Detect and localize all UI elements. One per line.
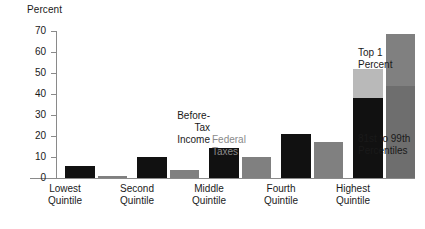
annotation-line-2: Percent <box>358 59 392 71</box>
bar-before-tax-income-second <box>137 157 167 178</box>
y-tick-mark-50 <box>51 73 56 74</box>
legend-line-3: Income <box>148 134 210 146</box>
y-tick-mark-60 <box>51 52 56 53</box>
legend-line-1: Federal <box>212 134 274 146</box>
annotation-line-1: Top 1 <box>358 47 392 59</box>
annotation-top-1-percent: Top 1 Percent <box>358 47 392 71</box>
y-tick-label-0: 0 <box>22 173 46 183</box>
bar-chart: Percent 70 60 50 40 30 20 10 0 <box>0 0 425 229</box>
bar-federal-taxes-fourth <box>314 142 343 178</box>
legend-line-2: Taxes <box>212 146 274 158</box>
annotation-line-2: Percentiles <box>358 145 410 157</box>
y-tick-label-50: 50 <box>22 68 46 78</box>
bar-before-tax-income-lowest <box>65 166 95 178</box>
bar-before-tax-income-highest <box>353 69 383 178</box>
y-tick-label-40: 40 <box>22 89 46 99</box>
category-line-2: Quintile <box>310 195 396 207</box>
category-line-1: Highest <box>310 183 396 195</box>
y-tick-mark-30 <box>51 115 56 116</box>
y-tick-label-20: 20 <box>22 131 46 141</box>
y-tick-mark-40 <box>51 94 56 95</box>
y-tick-label-60: 60 <box>22 47 46 57</box>
annotation-81st-to-99th-percentiles: 81st to 99th Percentiles <box>358 133 410 157</box>
bar-before-tax-income-fourth <box>281 134 311 178</box>
y-tick-label-10: 10 <box>22 152 46 162</box>
y-tick-mark-0 <box>51 178 56 179</box>
legend-line-2: Tax <box>148 122 210 134</box>
segment-81st-to-99th-taxes <box>386 86 415 178</box>
y-tick-label-30: 30 <box>22 110 46 120</box>
legend-line-1: Before- <box>148 110 210 122</box>
x-category-label-highest-quintile: Highest Quintile <box>310 183 396 206</box>
bar-federal-taxes-middle <box>242 157 271 178</box>
segment-top-1-percent-income <box>353 69 383 98</box>
y-tick-mark-10 <box>51 157 56 158</box>
bar-federal-taxes-second <box>170 170 199 178</box>
legend-before-tax-income: Before- Tax Income <box>148 110 210 146</box>
x-axis-line <box>30 178 415 179</box>
legend-federal-taxes: Federal Taxes <box>212 134 274 158</box>
y-tick-label-70: 70 <box>22 26 46 36</box>
bar-group-lowest-quintile <box>65 31 127 178</box>
bar-federal-taxes-lowest <box>98 176 127 178</box>
y-tick-mark-20 <box>51 136 56 137</box>
y-axis-title: Percent <box>27 4 62 15</box>
bar-group-second-quintile <box>137 31 199 178</box>
bar-group-fourth-quintile <box>281 31 343 178</box>
y-tick-mark-70 <box>51 31 56 32</box>
annotation-line-1: 81st to 99th <box>358 133 410 145</box>
